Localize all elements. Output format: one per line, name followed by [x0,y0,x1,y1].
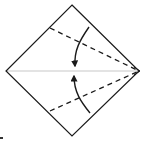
fold-down-arrow-icon [75,27,89,66]
fold-up-arrow-icon [74,76,90,113]
lower-valley-fold-line [50,71,139,111]
corner-mark [0,137,3,139]
origami-diagram [0,0,144,141]
upper-valley-fold-line [50,28,139,71]
